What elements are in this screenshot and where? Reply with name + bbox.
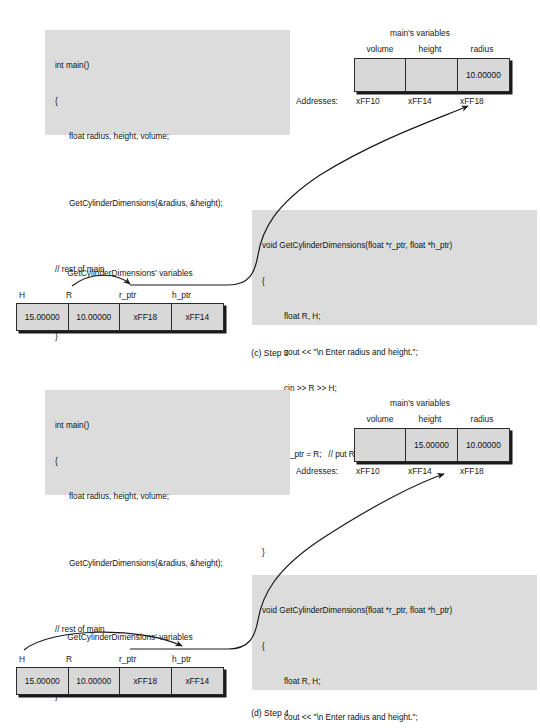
column-header-hptr: h_ptr [172,290,191,300]
code-line: } [262,547,527,559]
memory-cell-height: 15.00000 [406,429,457,461]
column-header-hptr: h_ptr [172,654,191,664]
code-line-blank [55,167,280,174]
addresses-label: Addresses: [296,466,338,476]
column-header-h: H [19,654,25,664]
address-xff18: xFF18 [460,466,484,476]
column-header-height: height [404,414,456,424]
code-line-blank [262,516,527,523]
memory-cell-volume [355,59,406,91]
code-line: { [262,276,527,288]
column-header-rptr: r_ptr [119,654,136,664]
code-line: float R, H; [262,311,527,323]
function-code-box-d: void GetCylinderDimensions(float *r_ptr,… [252,575,537,690]
address-xff14: xFF14 [408,466,432,476]
main-memory-cells: 15.00000 10.00000 [354,428,510,462]
memory-cell-r: 10.00000 [69,304,121,330]
address-xff14: xFF14 [408,96,432,106]
code-line: { [262,641,527,653]
main-variables-title: main's variables [355,28,485,38]
column-header-radius: radius [456,44,508,54]
addresses-label: Addresses: [296,96,338,106]
code-line: float radius, height, volume; [55,491,280,503]
code-line-blank [55,234,280,241]
memory-cell-volume [355,429,406,461]
code-line: float radius, height, volume; [55,131,280,143]
address-xff18: xFF18 [460,96,484,106]
code-line: float R, H; [262,676,527,688]
memory-cell-radius: 10.00000 [458,429,509,461]
main-variables-title: main's variables [355,398,485,408]
main-code-box-d: int main() { float radius, height, volum… [45,390,290,495]
column-header-h: H [19,290,25,300]
code-line-blank [55,527,280,534]
column-header-radius: radius [456,414,508,424]
memory-cell-h: 15.00000 [17,668,69,694]
code-line: } [55,331,280,343]
column-header-height: height [404,44,456,54]
address-xff10: xFF10 [356,96,380,106]
function-variables-title: GetCylinderDimensions' variables [40,632,220,642]
memory-cell-hptr: xFF14 [172,304,224,330]
code-line: int main() [55,420,280,432]
code-line: { [55,96,280,108]
function-memory-cells: 15.00000 10.00000 xFF18 xFF14 [16,303,224,331]
function-memory-cells: 15.00000 10.00000 xFF18 xFF14 [16,667,224,695]
memory-cell-hptr: xFF14 [172,668,224,694]
column-header-rptr: r_ptr [119,290,136,300]
step-caption-c: (c) Step 3 [0,348,540,358]
code-line: void GetCylinderDimensions(float *r_ptr,… [262,240,527,252]
memory-cell-height [406,59,457,91]
address-xff10: xFF10 [356,466,380,476]
code-line-blank [262,485,527,492]
function-code-box-c: void GetCylinderDimensions(float *r_ptr,… [252,210,537,325]
step-caption-d: (d) Step 4 [0,708,540,718]
code-line: void GetCylinderDimensions(float *r_ptr,… [262,605,527,617]
main-memory-cells: 10.00000 [354,58,510,92]
memory-cell-rptr: xFF18 [120,304,172,330]
memory-cell-r: 10.00000 [69,668,121,694]
memory-cell-radius: 10.00000 [458,59,509,91]
memory-cell-h: 15.00000 [17,304,69,330]
column-header-volume: volume [350,414,410,424]
main-code-box-c: int main() { float radius, height, volum… [45,30,290,135]
code-line: GetCylinderDimensions(&radius, &height); [55,558,280,570]
function-variables-title: GetCylinderDimensions' variables [40,268,220,278]
code-line: { [55,456,280,468]
column-header-r: R [66,654,72,664]
column-header-r: R [66,290,72,300]
column-header-volume: volume [350,44,410,54]
code-line: int main() [55,60,280,72]
memory-cell-rptr: xFF18 [120,668,172,694]
code-line-blank [55,594,280,601]
code-line: cin >> R >> H; [262,383,527,395]
code-line: GetCylinderDimensions(&radius, &height); [55,198,280,210]
